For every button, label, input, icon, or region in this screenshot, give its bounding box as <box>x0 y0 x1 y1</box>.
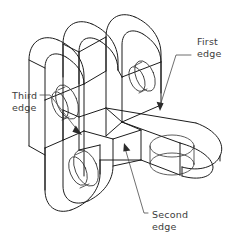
callout-group-first-edge: First edge <box>157 36 222 111</box>
callout-group-third-edge: Third edge <box>11 90 82 135</box>
top-mid-pad-front-right <box>100 41 118 70</box>
center-rib-cap <box>79 37 106 52</box>
second-edge-label-line2: edge <box>152 221 177 232</box>
top-right-pad-inner-arc2 <box>143 34 161 62</box>
rib-arm-intersection-1 <box>106 122 122 136</box>
top-right-bore-inner <box>126 64 149 93</box>
lower-left-bore-inner <box>65 154 91 188</box>
top-pad-merge-line <box>84 71 106 84</box>
upper-left-bore-wall-top <box>58 87 65 90</box>
third-edge-label-line2: edge <box>12 102 37 113</box>
first-edge-leader-line <box>160 55 191 106</box>
top-right-pad-outer-arc <box>106 15 135 71</box>
top-right-face-top <box>122 62 161 77</box>
top-right-bore-wall-top <box>134 62 142 66</box>
rib-arm-intersection-6 <box>122 122 141 130</box>
third-edge-leader-line <box>40 95 78 131</box>
arm-underside <box>113 160 141 166</box>
lower-left-pad-front-wall <box>45 148 71 211</box>
top-mid-pad-outer-arc2 <box>92 24 118 70</box>
arm-top-face-back <box>106 108 196 123</box>
first-edge-label-line1: First <box>197 36 218 47</box>
technical-drawing-canvas: First edge Second edge Third edge <box>0 0 243 242</box>
rib-arm-intersection-2 <box>84 131 113 139</box>
top-mid-pad-front-left <box>79 38 100 84</box>
center-rib-cap2 <box>63 44 79 52</box>
top-pad-merge-line3 <box>29 60 45 68</box>
rib-lower-join <box>79 145 100 150</box>
part-body-outlines <box>29 15 222 212</box>
lower-pad-merge-line <box>29 146 45 155</box>
upper-left-face-top <box>45 84 84 100</box>
top-pad-merge-line2 <box>118 70 122 77</box>
second-edge-label-line1: Second <box>152 209 188 220</box>
upper-left-pad-cap-outer <box>58 40 84 84</box>
rib-upper-join <box>79 108 106 117</box>
third-edge-label-line1: Third <box>11 90 37 101</box>
top-mid-pad-outer-arc <box>63 22 92 77</box>
rib-arm-intersection-4 <box>113 130 141 139</box>
second-edge-leader-line <box>125 148 148 213</box>
top-right-pad-outer-arc2 <box>135 17 161 93</box>
isometric-drawing-figure: First edge Second edge Third edge <box>0 0 243 242</box>
right-boss-hole-top <box>150 135 194 157</box>
second-edge-arrowhead <box>123 143 130 152</box>
first-edge-label-line2: edge <box>197 48 222 59</box>
arm-front-bottom <box>141 160 180 175</box>
rib-upper-join2 <box>63 110 79 117</box>
